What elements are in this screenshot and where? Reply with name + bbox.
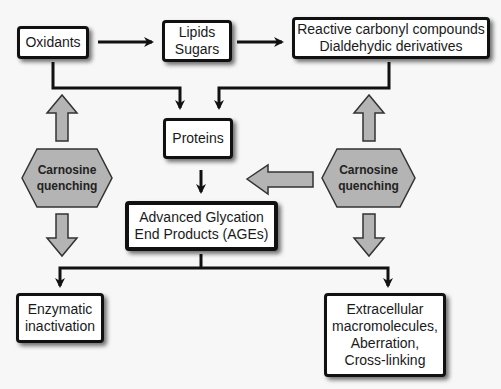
quench-right-line-2: quenching [338,178,399,194]
oxidants-box: Oxidants [17,26,89,59]
sugars-label: Sugars [175,41,219,58]
carnosine-quenching-diagram: Carnosine quenching Carnosine quenching … [0,0,501,389]
quench-left-line-2: quenching [37,178,98,194]
ages-line-1: Advanced Glycation [139,209,264,226]
quench-right-label: Carnosine quenching [322,149,415,207]
gray-arrow-down-right-icon [354,214,384,256]
gray-arrow-up-right-icon [354,95,384,141]
enzymatic-line-1: Enzymatic [28,301,93,318]
gray-arrow-left-icon [247,165,313,194]
arrow-ages-to-enzymatic [60,268,201,286]
arrow-ages-to-extracellular [201,268,388,286]
quench-right-line-1: Carnosine [339,162,398,178]
lipids-sugars-box: Lipids Sugars [162,20,232,62]
extracellular-line-2: macromolecules, [332,318,438,335]
enzymatic-inactivation-box: Enzymatic inactivation [16,293,104,343]
quench-left-line-1: Carnosine [38,162,97,178]
arrow-oxidants-to-proteins [53,62,180,108]
extracellular-line-1: Extracellular [346,301,423,318]
oxidants-label: Oxidants [25,34,80,51]
extracellular-box: Extracellular macromolecules, Aberration… [324,293,446,377]
ages-line-2: End Products (AGEs) [135,226,269,243]
gray-arrow-down-left-icon [47,214,77,256]
reactive-carbonyl-box: Reactive carbonyl compounds Dialdehydic … [292,17,490,59]
extracellular-line-3: Aberration, [351,335,419,352]
reactive-carbonyl-label: Reactive carbonyl compounds [297,21,485,38]
lipids-label: Lipids [179,24,216,41]
extracellular-line-4: Cross-linking [345,352,426,369]
ages-box: Advanced Glycation End Products (AGEs) [125,201,278,251]
enzymatic-line-2: inactivation [25,318,95,335]
proteins-box: Proteins [163,118,233,159]
gray-arrow-up-left-icon [47,95,77,141]
quench-left-label: Carnosine quenching [22,149,112,207]
dialdehydic-label: Dialdehydic derivatives [319,38,462,55]
proteins-label: Proteins [172,130,223,147]
